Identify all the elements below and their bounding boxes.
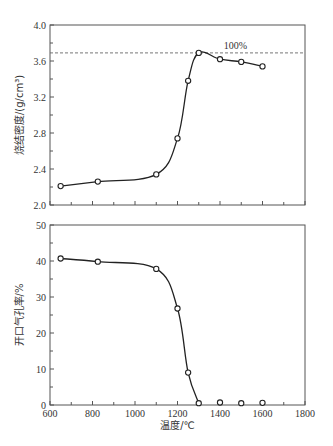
y-tick-label: 50 <box>36 220 46 231</box>
y-tick-label: 10 <box>36 364 46 375</box>
x-tick-label: 1800 <box>295 408 315 419</box>
y-tick-label: 4.0 <box>34 20 47 31</box>
y-tick-label: 3.6 <box>34 56 47 67</box>
data-point-marker <box>186 78 191 83</box>
y-tick-label: 2.0 <box>34 200 47 211</box>
x-tick-label: 800 <box>85 408 100 419</box>
data-point-marker <box>175 136 180 141</box>
y-tick-label: 2.4 <box>34 164 47 175</box>
x-axis-title: 温度/℃ <box>160 419 195 431</box>
data-point-marker <box>196 50 201 55</box>
data-point-marker <box>260 400 265 405</box>
plot-frame <box>50 25 305 205</box>
series-line <box>61 52 263 186</box>
data-point-marker <box>175 306 180 311</box>
data-point-marker <box>239 59 244 64</box>
data-point-marker <box>239 401 244 406</box>
porosity-plot: 0102030405060080010001200140016001800开口气… <box>13 220 315 432</box>
y-tick-label: 3.2 <box>34 92 47 103</box>
data-point-marker <box>217 400 222 405</box>
figure-caption-cropped <box>0 436 333 446</box>
data-point-marker <box>95 179 100 184</box>
y-axis-title: 开口气孔率/% <box>13 284 25 347</box>
y-tick-label: 20 <box>36 328 46 339</box>
data-point-marker <box>186 370 191 375</box>
y-tick-label: 2.8 <box>34 128 47 139</box>
data-point-marker <box>217 57 222 62</box>
data-point-marker <box>260 64 265 69</box>
x-tick-label: 1200 <box>168 408 188 419</box>
data-point-marker <box>58 184 63 189</box>
x-tick-label: 600 <box>43 408 58 419</box>
chart-figure: 2.02.42.83.23.64.0100%烧结密度/(g/cm³) 01020… <box>0 0 333 446</box>
density-plot: 2.02.42.83.23.64.0100%烧结密度/(g/cm³) <box>13 20 305 211</box>
data-point-marker <box>58 256 63 261</box>
y-tick-label: 30 <box>36 292 46 303</box>
plot-frame <box>50 225 305 405</box>
x-tick-label: 1600 <box>253 408 273 419</box>
y-tick-label: 40 <box>36 256 46 267</box>
data-point-marker <box>154 266 159 271</box>
series-line <box>61 258 199 403</box>
y-axis-title: 烧结密度/(g/cm³) <box>13 75 25 155</box>
x-tick-label: 1400 <box>210 408 230 419</box>
x-tick-label: 1000 <box>125 408 145 419</box>
data-point-marker <box>95 259 100 264</box>
data-point-marker <box>154 172 159 177</box>
data-point-marker <box>196 401 201 406</box>
reference-label: 100% <box>224 40 247 51</box>
